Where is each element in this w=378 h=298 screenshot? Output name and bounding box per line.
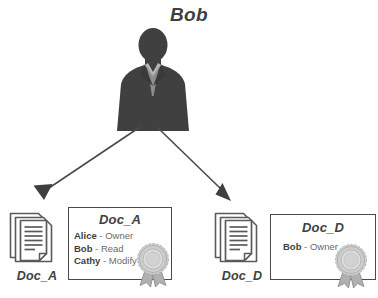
document-caption-doc-d: Doc_D	[211, 269, 273, 283]
seal-ribbon-icon	[331, 243, 371, 289]
arrow-bob-to-doc-d	[157, 127, 231, 201]
acl-panel-doc-d[interactable]: Doc_D Bob - Owner	[270, 214, 376, 280]
document-item-doc-d[interactable]: Doc_D	[211, 206, 273, 283]
acl-subject: Bob	[74, 243, 92, 254]
document-caption-doc-a: Doc_A	[6, 269, 68, 283]
acl-title-doc-d: Doc_D	[271, 220, 375, 235]
acl-entry: Alice - Owner	[74, 230, 171, 243]
arrow-bob-to-doc-a	[34, 127, 141, 200]
acl-separator: -	[95, 243, 98, 254]
acl-separator: -	[304, 241, 307, 252]
acl-panel-doc-a[interactable]: Doc_A Alice - Owner Bob - Read Cathy - M…	[68, 207, 172, 280]
acl-separator: -	[99, 230, 102, 241]
document-item-doc-a[interactable]: Doc_A	[6, 206, 68, 283]
seal-ribbon-icon	[133, 242, 173, 288]
acl-right: Read	[101, 243, 124, 254]
document-stack-icon	[211, 206, 273, 268]
acl-subject: Bob	[283, 241, 301, 252]
acl-subject: Cathy	[74, 255, 100, 266]
acl-right: Owner	[105, 230, 133, 241]
document-stack-icon	[6, 206, 68, 268]
acl-subject: Alice	[74, 230, 97, 241]
acl-title-doc-a: Doc_A	[69, 212, 171, 227]
acl-separator: -	[103, 255, 106, 266]
diagram-canvas: Bob	[0, 0, 378, 298]
